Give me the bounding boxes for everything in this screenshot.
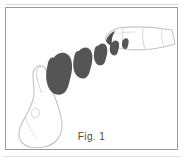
impression-2 <box>68 46 98 81</box>
figure-illustration <box>6 8 177 149</box>
page-bottom-rule <box>4 156 181 157</box>
figure-page: Fig. 1 <box>0 0 185 168</box>
figure-frame: Fig. 1 <box>5 7 178 150</box>
impression-3 <box>90 42 111 66</box>
page-top-rule <box>6 4 179 5</box>
figure-caption: Fig. 1 <box>6 131 177 143</box>
impression-shape <box>90 42 111 66</box>
impression-shape <box>68 46 98 81</box>
impression-series <box>39 38 130 98</box>
